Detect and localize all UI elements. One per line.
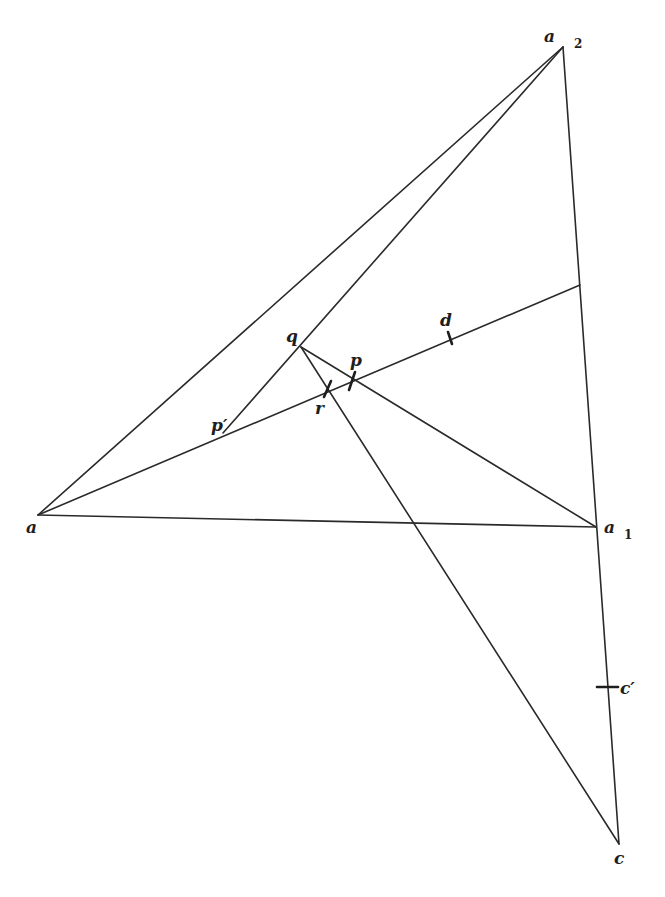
label-r: r: [315, 398, 325, 418]
segment-a-e: [38, 285, 580, 515]
geometric-diagram: a 2 a a 1 q p r p′ d c′ c: [0, 0, 665, 897]
segment-q-a1: [301, 347, 596, 527]
label-c-prime: c′: [620, 678, 635, 698]
label-a2-sub: 2: [574, 37, 582, 51]
segments: [38, 47, 619, 844]
segment-a-a2: [38, 47, 563, 515]
segment-a2-pprime: [223, 47, 563, 433]
labels: a 2 a a 1 q p r p′ d c′ c: [26, 26, 635, 868]
segment-a2-c: [563, 47, 619, 844]
label-a1: a: [604, 517, 615, 537]
label-a1-sub: 1: [624, 528, 632, 542]
tick-d: [448, 332, 452, 344]
tick-marks: [324, 332, 618, 687]
segment-q-c: [301, 347, 619, 844]
label-p-prime: p′: [211, 415, 228, 435]
label-d: d: [440, 310, 452, 330]
label-c: c: [614, 848, 625, 868]
label-a2: a: [544, 26, 555, 46]
label-a: a: [26, 517, 37, 537]
segment-a-a1: [38, 515, 596, 527]
label-q: q: [286, 326, 298, 346]
label-p: p: [350, 350, 362, 370]
